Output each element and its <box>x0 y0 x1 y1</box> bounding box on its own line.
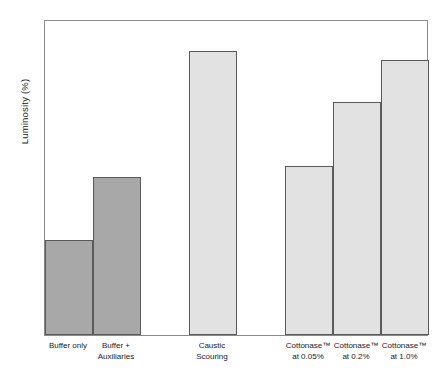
bar <box>333 102 381 335</box>
bar <box>189 51 237 335</box>
x-tick-label: Buffer + Auxiliaries <box>75 341 157 362</box>
bar-chart: Luminosity (%) 6867666564636261605958 Bu… <box>0 0 444 383</box>
bar-slot <box>45 19 93 335</box>
bar-slot <box>189 19 237 335</box>
bar-slot <box>381 19 429 335</box>
bar <box>45 240 93 335</box>
bar-slot <box>93 19 141 335</box>
bar <box>285 166 333 335</box>
plot-area: 6867666564636261605958 <box>44 20 428 336</box>
bars-layer <box>45 21 427 335</box>
x-tick-label: Caustic Scouring <box>171 341 253 362</box>
bar <box>93 177 141 335</box>
bar-slot <box>333 19 381 335</box>
bar-slot <box>285 19 333 335</box>
x-tick-label: Cottonase™ at 1.0% <box>363 341 444 362</box>
y-axis-title: Luminosity (%) <box>19 42 30 182</box>
bar <box>381 60 429 335</box>
